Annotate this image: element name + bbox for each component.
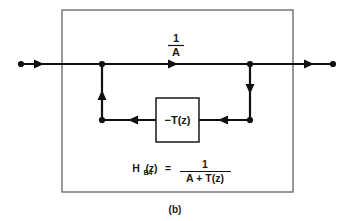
figure-caption: (b) (169, 204, 182, 215)
feedback-corner-right-dot (247, 117, 253, 123)
feedback-left-arrow-outer (128, 116, 138, 125)
feedback-corner-left-dot (99, 117, 105, 123)
forward-gain-denominator: A (172, 46, 180, 58)
summing-node-left-dot (99, 61, 105, 67)
signal-flow-graph: 1 A −T(z) H B4 (z) = 1 A + T(z) (b) (0, 0, 350, 221)
equation-lhs-symbol: H (132, 162, 140, 174)
equation-equals-sign: = (165, 162, 171, 174)
forward-gain-arrow (168, 60, 178, 69)
feedback-down-arrow (246, 84, 255, 94)
output-terminal-dot (330, 61, 336, 67)
feedback-left-arrow-inner (218, 116, 228, 125)
minus-T-of-z-block-label: −T(z) (165, 114, 191, 126)
pickoff-node-right-dot (247, 61, 253, 67)
feedback-up-arrow (98, 90, 107, 100)
equation-numerator: 1 (202, 158, 208, 170)
signal-flow-diagram-figure: 1 A −T(z) H B4 (z) = 1 A + T(z) (b) (0, 0, 350, 221)
output-arrow (304, 60, 314, 69)
forward-gain-numerator: 1 (173, 32, 179, 44)
equation-denominator: A + T(z) (186, 172, 224, 184)
input-terminal-dot (18, 61, 24, 67)
equation-lhs-argument: (z) (145, 162, 157, 174)
input-arrow (34, 60, 44, 69)
